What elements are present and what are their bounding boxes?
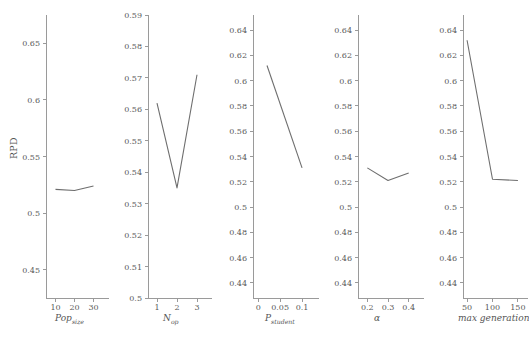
y-tick-label: 0.54 <box>229 153 247 162</box>
y-tick-label: 0.58 <box>229 102 247 111</box>
subplot-alpha: 0.440.460.480.50.520.540.560.580.60.620.… <box>320 0 425 338</box>
y-tick-label: 0.44 <box>229 279 247 288</box>
y-tick-label: 0.46 <box>229 254 247 263</box>
subplot-canvas: 0.50.510.520.530.540.550.560.570.580.591… <box>110 0 215 338</box>
y-tick-label: 0.52 <box>439 178 457 187</box>
x-axis-label-subscript: size <box>72 318 84 325</box>
y-tick-label: 0.54 <box>124 168 142 177</box>
y-tick-label: 0.48 <box>334 228 352 237</box>
x-tick-label: 50 <box>462 303 472 312</box>
y-tick-label: 0.45 <box>22 266 40 275</box>
y-tick-label: 0.53 <box>124 200 142 209</box>
x-tick-label: 0.3 <box>382 303 395 312</box>
x-axis-label-p-student: Pstudent <box>265 313 295 325</box>
subplot-canvas: 0.440.460.480.50.520.540.560.580.60.620.… <box>425 0 529 338</box>
y-tick-label: 0.6 <box>27 96 40 105</box>
x-tick-label: 0.2 <box>361 303 374 312</box>
y-tick-label: 0.64 <box>439 26 457 35</box>
x-axis-label-base: N <box>163 313 171 323</box>
y-tick-label: 0.59 <box>124 11 142 20</box>
x-tick-label: 30 <box>88 303 98 312</box>
x-axis-label-base: Pop <box>55 313 72 323</box>
subplot-canvas: 0.440.460.480.50.520.540.560.580.60.620.… <box>215 0 320 338</box>
y-tick-label: 0.5 <box>27 209 40 218</box>
x-axis-label-pop-size: Popsize <box>55 313 84 325</box>
y-tick-label: 0.54 <box>439 153 457 162</box>
y-tick-label: 0.56 <box>439 127 457 136</box>
y-tick-label: 0.6 <box>339 77 352 86</box>
y-tick-label: 0.62 <box>439 51 457 60</box>
subplot-p-student: 0.440.460.480.50.520.540.560.580.60.620.… <box>215 0 320 338</box>
y-tick-label: 0.6 <box>234 77 247 86</box>
x-axis-label-base: max generation <box>458 313 529 323</box>
subplot-pop-size: 0.450.50.550.60.65102030 <box>0 0 110 338</box>
x-axis-label-alpha: α <box>374 313 380 323</box>
y-tick-label: 0.62 <box>334 51 352 60</box>
y-tick-label: 0.52 <box>334 178 352 187</box>
y-tick-label: 0.5 <box>129 294 142 303</box>
data-series-line <box>467 40 518 180</box>
y-tick-label: 0.52 <box>124 231 142 240</box>
subplot-canvas: 0.440.460.480.50.520.540.560.580.60.620.… <box>320 0 425 338</box>
x-axis-label-subscript: student <box>271 318 295 325</box>
y-tick-label: 0.48 <box>229 228 247 237</box>
y-tick-label: 0.58 <box>439 102 457 111</box>
y-tick-label: 0.65 <box>22 39 40 48</box>
x-axis-label-base: α <box>374 313 380 323</box>
y-tick-label: 0.44 <box>334 279 352 288</box>
x-tick-label: 0.05 <box>271 303 289 312</box>
data-series-line <box>56 186 94 191</box>
y-tick-label: 0.56 <box>124 105 142 114</box>
y-tick-label: 0.57 <box>124 74 142 83</box>
x-tick-label: 20 <box>69 303 79 312</box>
x-tick-label: 0.4 <box>402 303 415 312</box>
subplot-canvas: 0.450.50.550.60.65102030 <box>0 0 110 338</box>
y-tick-label: 0.62 <box>229 51 247 60</box>
subplot-max-generation: 0.440.460.480.50.520.540.560.580.60.620.… <box>425 0 529 338</box>
x-tick-label: 0 <box>256 303 261 312</box>
y-tick-label: 0.58 <box>124 42 142 51</box>
y-tick-label: 0.54 <box>334 153 352 162</box>
y-tick-label: 0.46 <box>334 254 352 263</box>
y-tick-label: 0.55 <box>124 137 142 146</box>
y-tick-label: 0.58 <box>334 102 352 111</box>
y-tick-label: 0.48 <box>439 228 457 237</box>
y-tick-label: 0.6 <box>444 77 457 86</box>
parameter-tuning-figure: RPD 0.450.50.550.60.65102030 0.50.510.52… <box>0 0 529 338</box>
y-tick-label: 0.51 <box>124 263 142 272</box>
x-tick-label: 3 <box>194 303 199 312</box>
x-axis-label-max-generation: max generation <box>458 313 529 323</box>
y-tick-label: 0.64 <box>334 26 352 35</box>
y-tick-label: 0.56 <box>229 127 247 136</box>
y-tick-label: 0.46 <box>439 254 457 263</box>
data-series-line <box>157 75 197 188</box>
subplot-n-op: 0.50.510.520.530.540.550.560.570.580.591… <box>110 0 215 338</box>
y-tick-label: 0.5 <box>234 203 247 212</box>
x-tick-label: 100 <box>485 303 500 312</box>
y-tick-label: 0.56 <box>334 127 352 136</box>
y-tick-label: 0.44 <box>439 279 457 288</box>
x-tick-label: 10 <box>50 303 60 312</box>
data-series-line <box>367 168 408 181</box>
x-tick-label: 0.1 <box>296 303 309 312</box>
y-tick-label: 0.64 <box>229 26 247 35</box>
x-tick-label: 2 <box>174 303 179 312</box>
x-tick-label: 150 <box>510 303 525 312</box>
x-tick-label: 1 <box>154 303 159 312</box>
y-tick-label: 0.55 <box>22 153 40 162</box>
y-tick-label: 0.5 <box>339 203 352 212</box>
y-tick-label: 0.5 <box>444 203 457 212</box>
x-axis-label-subscript: op <box>171 318 179 325</box>
data-series-line <box>267 66 302 168</box>
y-tick-label: 0.52 <box>229 178 247 187</box>
x-axis-label-n-op: Nop <box>163 313 179 325</box>
